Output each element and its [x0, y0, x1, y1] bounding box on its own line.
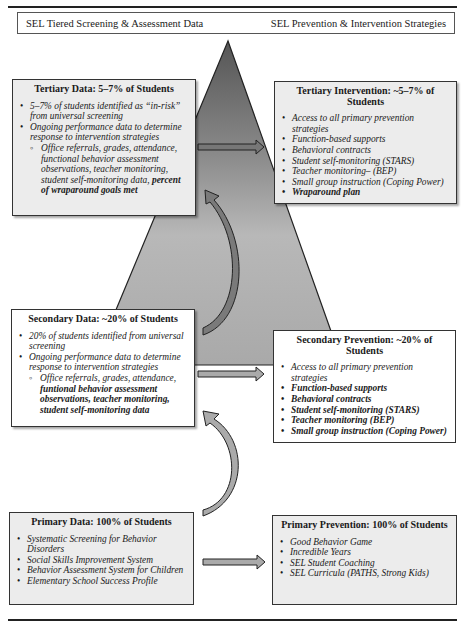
list-item: Behavior Assessment System for Children: [16, 565, 187, 576]
list-item: SEL Curricula (PATHS, Strong Kids): [279, 568, 450, 579]
list-item: Small group instruction (Coping Power): [280, 426, 449, 437]
list-item: 20% of students identified from universa…: [18, 331, 188, 352]
primary-data-title: Primary Data: 100% of Students: [16, 517, 187, 528]
list-item: Ongoing performance data to determine re…: [19, 122, 189, 143]
list-item: Student self-monitoring (STARS): [280, 405, 449, 416]
arrow-secondary-right: [198, 367, 264, 381]
list-item: Small group instruction (Coping Power): [281, 177, 450, 188]
list-item: SEL Student Coaching: [279, 558, 450, 569]
list-item: Student self-monitoring (STARS): [281, 156, 450, 167]
list-item: Social Skills Improvement System: [16, 555, 187, 566]
list-item: Systematic Screening for Behavior Disord…: [16, 534, 187, 555]
list-item: Behavioral contracts: [281, 145, 450, 156]
list-item: Ongoing performance data to determine re…: [18, 352, 188, 373]
tertiary-data-title: Tertiary Data: 5–7% of Students: [19, 84, 189, 95]
bottom-rule: [8, 619, 457, 621]
list-item: Access to all primary prevention strateg…: [280, 362, 449, 383]
primary-prevention-title: Primary Prevention: 100% of Students: [279, 520, 450, 531]
arrow-primary-right: [203, 555, 265, 569]
list-item: Teacher monitoring (BEP): [280, 415, 449, 426]
list-sub-item: Office referrals, grades, attendance, fu…: [19, 143, 189, 196]
list-item: 5–7% of students identified as “in-risk”…: [19, 101, 189, 122]
list-item: Function-based supports: [281, 134, 450, 145]
secondary-data-title: Secondary Data: ~20% of Students: [18, 314, 188, 325]
list-item: Good Behavior Game: [279, 537, 450, 548]
secondary-data-box: Secondary Data: ~20% of Students 20% of …: [11, 309, 195, 427]
primary-prevention-box: Primary Prevention: 100% of Students Goo…: [272, 515, 457, 605]
list-item: Function-based supports: [280, 383, 449, 394]
primary-data-box: Primary Data: 100% of Students Systemati…: [9, 512, 194, 605]
list-sub-item: Office referrals, grades, attendance, fu…: [18, 373, 188, 415]
list-item: Teacher monitoring– (BEP): [281, 166, 450, 177]
curved-arrow-up-lower: [203, 411, 238, 516]
tertiary-data-box: Tertiary Data: 5–7% of Students 5–7% of …: [12, 79, 196, 216]
list-item: Elementary School Success Profile: [16, 576, 187, 587]
secondary-prevention-title: Secondary Prevention: ~20% of Students: [280, 335, 449, 356]
secondary-prevention-box: Secondary Prevention: ~20% of Students A…: [273, 330, 456, 443]
list-item: Wraparound plan: [281, 187, 450, 198]
tertiary-intervention-box: Tertiary Intervention: ~5–7% of Students…: [274, 81, 457, 204]
list-item: Incredible Years: [279, 547, 450, 558]
list-item: Behavioral contracts: [280, 394, 449, 405]
tertiary-intervention-title: Tertiary Intervention: ~5–7% of Students: [281, 86, 450, 107]
list-item: Access to all primary prevention strateg…: [281, 113, 450, 134]
